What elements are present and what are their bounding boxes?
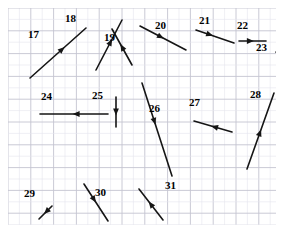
vector-31 [139,189,163,220]
vector-arrowhead [151,117,157,125]
vector-21 [196,30,234,43]
vector-shaft [142,83,172,176]
vector-20 [140,26,186,50]
vector-arrowhead [211,125,219,131]
vector-shaft [196,30,234,43]
vector-26 [142,83,172,176]
vector-arrowhead [206,31,214,36]
vector-18 [96,20,122,70]
vector-23 [275,26,276,78]
vector-diagram-figure: 171819202122232425262728293031 [0,0,284,235]
vector-24 [40,111,108,117]
vector-17 [30,28,86,78]
grid-panel [8,8,276,225]
vector-25 [113,97,119,127]
vector-arrowhead [73,111,80,117]
vector-shaft [30,28,86,78]
vector-arrowhead [256,129,261,137]
vector-22 [239,38,266,44]
vector-28 [247,93,274,169]
vector-30 [84,184,108,221]
vector-arrowhead [247,38,254,44]
vector-arrowhead [113,109,119,116]
vector-29 [39,206,52,219]
vector-arrows [8,8,276,225]
vector-arrowhead [275,46,276,53]
vector-arrowhead [90,195,96,202]
vector-19 [112,29,132,65]
vector-27 [194,121,232,132]
